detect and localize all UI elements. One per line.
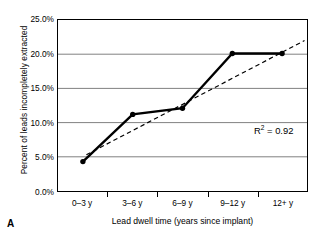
r-squared-annotation: R2 = 0.92: [254, 125, 293, 136]
chart-figure: Percent of leads incompletely extracted …: [0, 0, 326, 240]
x-tick-label: 3–6 y: [122, 198, 142, 208]
x-axis-tick-labels: 0–3 y3–6 y6–9 y9–12 y12+ y: [57, 198, 308, 212]
x-tick-label: 9–12 y: [220, 198, 245, 208]
y-tick-label: 5.0%: [6, 152, 54, 162]
x-tick-mark: [107, 192, 108, 197]
x-tick-mark: [157, 192, 158, 197]
x-tick-mark: [258, 192, 259, 197]
panel-label: A: [7, 218, 14, 229]
trendline: [86, 41, 304, 155]
y-tick-label: 25.0%: [6, 14, 54, 24]
data-point-markers: [80, 51, 285, 164]
y-tick-label: 10.0%: [6, 118, 54, 128]
plot-area: R2 = 0.92: [57, 19, 308, 192]
x-axis-title: Lead dwell time (years since implant): [57, 216, 308, 226]
y-tick-label: 0.0%: [6, 187, 54, 197]
x-tick-label: 6–9 y: [172, 198, 192, 208]
y-axis-tick-labels: 0.0%5.0%10.0%15.0%20.0%25.0%: [4, 0, 54, 240]
x-tick-mark: [208, 192, 209, 197]
y-tick-label: 20.0%: [6, 49, 54, 59]
r-squared-prefix: R: [254, 125, 261, 136]
gridlines: [58, 54, 307, 157]
plot-graphics: [58, 20, 307, 191]
r-squared-suffix: = 0.92: [264, 125, 293, 136]
x-tick-label: 12+ y: [273, 198, 294, 208]
x-tick-label: 0–3 y: [72, 198, 92, 208]
y-tick-label: 15.0%: [6, 83, 54, 93]
